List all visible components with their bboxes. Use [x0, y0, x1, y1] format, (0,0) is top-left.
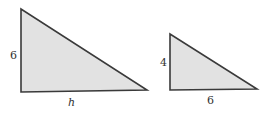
- small-triangle-base-label: 6: [207, 94, 214, 107]
- small-triangle: [170, 34, 257, 90]
- small-triangle-height-label: 4: [160, 56, 167, 69]
- similar-triangles-diagram: 6 h 4 6: [0, 0, 268, 114]
- large-triangle-height-label: 6: [10, 49, 17, 62]
- large-triangle-base-label: h: [68, 96, 75, 109]
- large-triangle: [21, 9, 147, 92]
